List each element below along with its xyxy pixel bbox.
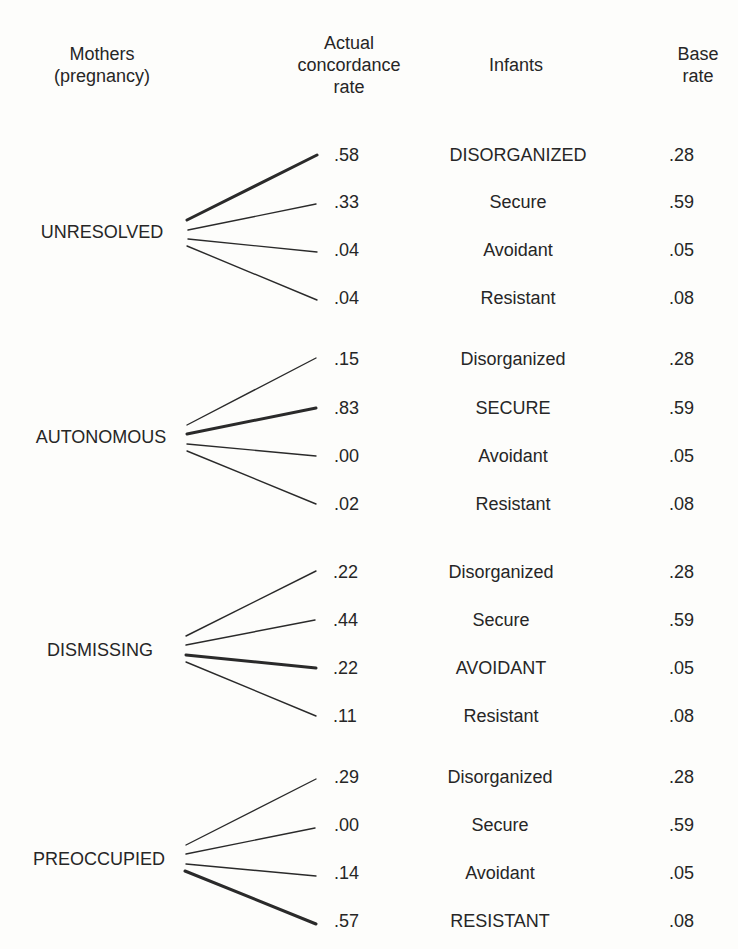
base-rate: .05 bbox=[669, 445, 694, 467]
concordance-rate: .11 bbox=[333, 705, 357, 727]
link-dismissing-disorganized bbox=[186, 571, 316, 636]
base-rate: .59 bbox=[669, 397, 694, 419]
infant-label: AVOIDANT bbox=[456, 657, 547, 679]
infant-label: Resistant bbox=[463, 705, 538, 727]
concordance-rate: .00 bbox=[334, 814, 359, 836]
base-rate: .05 bbox=[669, 862, 694, 884]
infant-label: Disorganized bbox=[447, 766, 552, 788]
infant-label: DISORGANIZED bbox=[449, 144, 586, 166]
infant-label: Secure bbox=[489, 191, 546, 213]
base-rate: .08 bbox=[669, 910, 694, 932]
link-dismissing-secure bbox=[186, 620, 315, 645]
infant-label: Avoidant bbox=[478, 445, 548, 467]
concordance-rate: .04 bbox=[334, 287, 359, 309]
concordance-rate: .57 bbox=[334, 910, 359, 932]
concordance-rate: .14 bbox=[334, 862, 359, 884]
infant-label: RESISTANT bbox=[450, 910, 550, 932]
link-preoccupied-resistant bbox=[185, 871, 316, 924]
base-rate: .08 bbox=[669, 493, 694, 515]
infant-label: Secure bbox=[472, 609, 529, 631]
infant-label: Disorganized bbox=[448, 561, 553, 583]
concordance-rate: .22 bbox=[333, 561, 358, 583]
infant-label: Resistant bbox=[475, 493, 550, 515]
base-rate: .28 bbox=[669, 144, 694, 166]
link-autonomous-disorganized bbox=[187, 358, 316, 425]
concordance-rate: .58 bbox=[334, 144, 359, 166]
link-unresolved-resistant bbox=[187, 246, 317, 300]
concordance-rate: .33 bbox=[334, 191, 359, 213]
link-autonomous-secure bbox=[187, 408, 316, 434]
infant-label: Avoidant bbox=[465, 862, 535, 884]
link-dismissing-resistant bbox=[186, 662, 316, 716]
base-rate: .05 bbox=[669, 657, 694, 679]
mother-label-autonomous: AUTONOMOUS bbox=[36, 426, 167, 448]
base-rate: .08 bbox=[669, 287, 694, 309]
infant-label: Resistant bbox=[480, 287, 555, 309]
base-rate: .28 bbox=[669, 561, 694, 583]
link-unresolved-avoidant bbox=[188, 239, 317, 252]
connector-lines bbox=[0, 0, 738, 949]
mother-label-unresolved: UNRESOLVED bbox=[41, 221, 164, 243]
link-preoccupied-avoidant bbox=[186, 864, 316, 876]
base-rate: .59 bbox=[669, 191, 694, 213]
link-preoccupied-disorganized bbox=[186, 779, 316, 845]
concordance-rate: .04 bbox=[334, 239, 359, 261]
infant-label: Secure bbox=[471, 814, 528, 836]
base-rate: .05 bbox=[669, 239, 694, 261]
infant-label: Disorganized bbox=[460, 348, 565, 370]
link-unresolved-secure bbox=[188, 204, 316, 230]
concordance-rate: .02 bbox=[334, 493, 359, 515]
base-rate: .28 bbox=[669, 766, 694, 788]
base-rate: .59 bbox=[669, 814, 694, 836]
base-rate: .08 bbox=[669, 705, 694, 727]
link-autonomous-avoidant bbox=[187, 444, 316, 456]
concordance-rate: .15 bbox=[334, 348, 359, 370]
link-preoccupied-secure bbox=[186, 828, 315, 854]
infant-label: SECURE bbox=[475, 397, 550, 419]
concordance-rate: .00 bbox=[334, 445, 359, 467]
concordance-rate: .44 bbox=[333, 609, 358, 631]
concordance-rate: .29 bbox=[334, 766, 359, 788]
concordance-rate: .22 bbox=[333, 657, 358, 679]
link-autonomous-resistant bbox=[187, 451, 316, 504]
concordance-rate: .83 bbox=[334, 397, 359, 419]
mother-label-preoccupied: PREOCCUPIED bbox=[33, 848, 165, 870]
link-unresolved-disorganized bbox=[187, 155, 317, 220]
base-rate: .59 bbox=[669, 609, 694, 631]
base-rate: .28 bbox=[669, 348, 694, 370]
link-dismissing-avoidant bbox=[186, 655, 316, 668]
infant-label: Avoidant bbox=[483, 239, 553, 261]
mother-label-dismissing: DISMISSING bbox=[47, 639, 153, 661]
